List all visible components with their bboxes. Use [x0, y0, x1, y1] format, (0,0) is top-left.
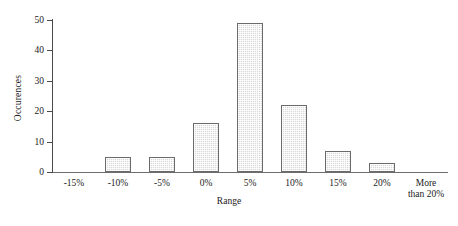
y-tick-label: 40 [35, 45, 45, 55]
bar [325, 151, 351, 172]
y-tick-label: 30 [35, 76, 45, 86]
bar [369, 163, 395, 172]
bar [149, 157, 175, 172]
plot-area: 01020304050 [52, 19, 448, 173]
x-axis-title: Range [0, 196, 458, 206]
y-tick-label: 0 [39, 167, 44, 177]
bar [237, 23, 263, 172]
bar [193, 123, 219, 172]
bar [105, 157, 131, 172]
y-tick-label: 20 [35, 106, 45, 116]
histogram-chart: Occurences 01020304050 -15%-10%-5%0%5%10… [0, 0, 458, 226]
bars-layer [52, 19, 448, 173]
bar [281, 105, 307, 172]
y-tick-label: 10 [35, 137, 45, 147]
y-axis-title: Occurences [13, 58, 23, 138]
y-tick-label: 50 [35, 15, 45, 25]
